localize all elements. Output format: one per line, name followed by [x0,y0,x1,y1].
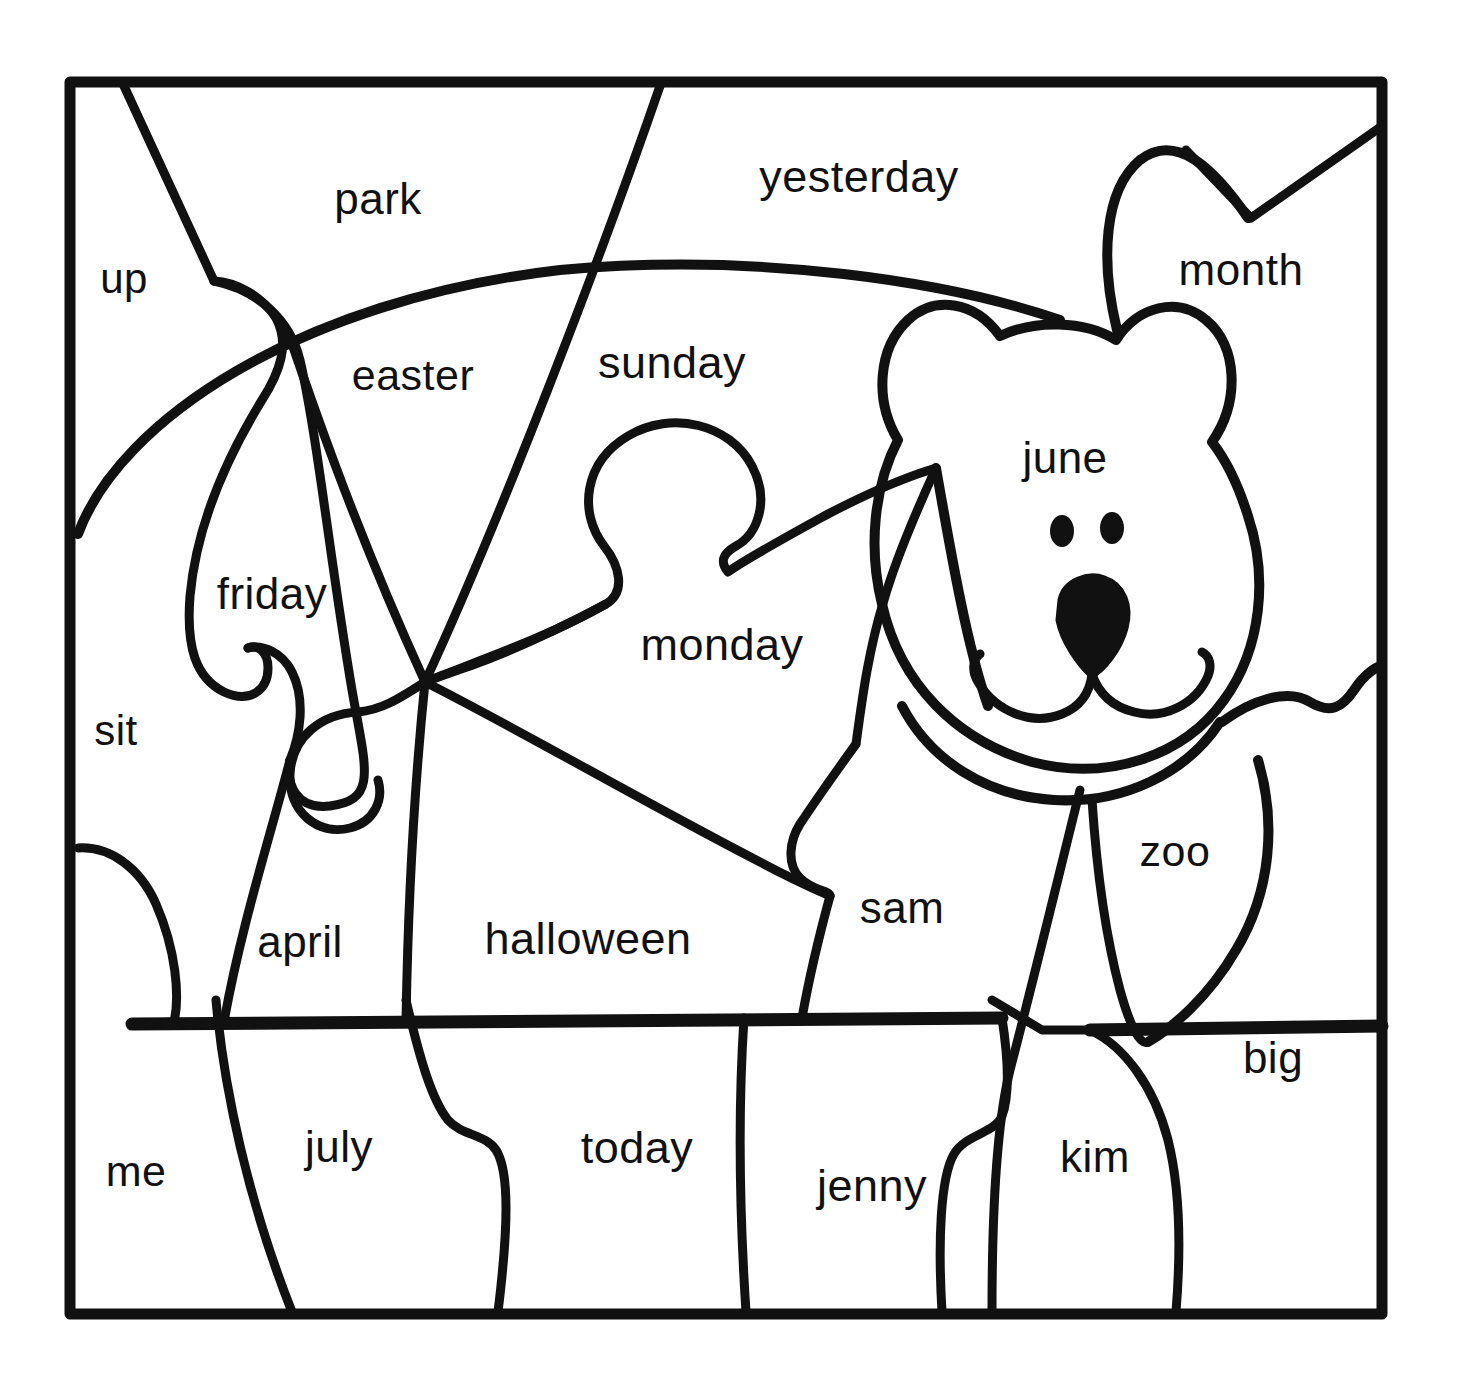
bear-left-eye [1052,517,1072,545]
bear-right-eye [1102,514,1122,542]
worksheet-page: upparkyesterdaymontheastersundayjunefrid… [0,0,1462,1388]
puzzle-artwork [0,0,1462,1388]
bear-left-arm-inner [1092,800,1148,1043]
monday-piece-right-edge [856,468,936,744]
divider-sam-left [802,896,830,1018]
divider-up-left [214,281,364,806]
divider-july-today [406,1000,506,1312]
bear-body-right [1148,760,1268,1042]
friday-piece-outline [189,281,282,696]
divider-april-right [406,682,425,1022]
divider-top-arc [78,265,1060,534]
bear-right-arm [1222,666,1382,722]
divider-me-july [216,1000,292,1312]
bear-body-left [936,468,988,706]
divider-horizontal-main [132,1018,1002,1024]
bear-nose [1060,578,1126,674]
monday-piece-top-knob [425,423,936,682]
divider-halloween-monday [425,682,830,896]
divider-horizontal-left-stub [132,1022,174,1024]
divider-up-park [124,86,214,281]
divider-park-sunday [425,86,660,682]
knob-sit-me [78,848,177,1022]
friday-knob-lower [248,647,300,760]
monday-piece-bottom [791,744,856,896]
bear-leg-right [1090,1030,1179,1312]
divider-friday-right [290,338,425,682]
divider-today-jenny [740,1018,746,1312]
divider-april-left [224,760,290,1022]
